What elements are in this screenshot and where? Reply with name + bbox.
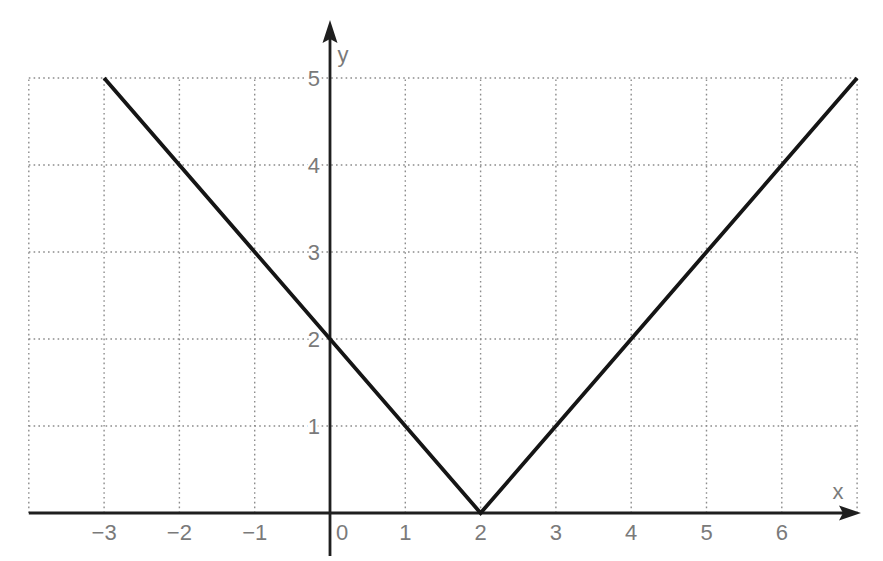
y-axis-label: y [338,42,349,67]
y-tick-label: 3 [308,240,320,265]
x-tick-label: 1 [399,520,411,545]
x-tick-label: −3 [92,520,117,545]
x-tick-label: 0 [336,520,348,545]
x-tick-label: 6 [776,520,788,545]
x-axis-label: x [833,479,844,504]
x-tick-label: 4 [625,520,637,545]
y-tick-label: 2 [308,327,320,352]
x-tick-label: 5 [700,520,712,545]
y-tick-label: 1 [308,414,320,439]
plot-svg: −3−2−1012345612345xy [0,0,883,561]
x-tick-label: −2 [167,520,192,545]
x-tick-label: 2 [474,520,486,545]
graph-page: −3−2−1012345612345xy [0,0,883,561]
x-tick-label: −1 [242,520,267,545]
y-tick-label: 4 [308,153,320,178]
x-tick-label: 3 [550,520,562,545]
y-tick-label: 5 [308,66,320,91]
